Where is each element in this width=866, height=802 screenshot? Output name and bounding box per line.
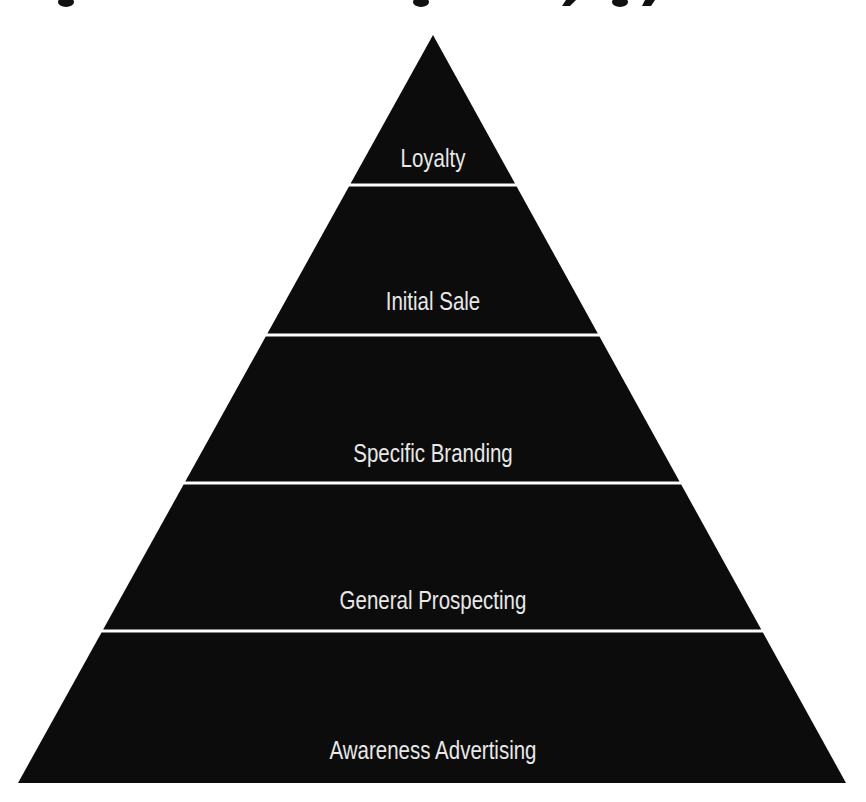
tier-label-awareness-advertising: Awareness Advertising bbox=[329, 736, 536, 764]
tier-label-initial-sale: Initial Sale bbox=[386, 287, 481, 315]
tier-label-general-prospecting: General Prospecting bbox=[340, 586, 527, 614]
pyramid-diagram: Loyalty Initial Sale Specific Branding G… bbox=[0, 0, 866, 802]
tier-label-loyalty: Loyalty bbox=[401, 144, 466, 172]
tier-label-specific-branding: Specific Branding bbox=[353, 439, 513, 467]
